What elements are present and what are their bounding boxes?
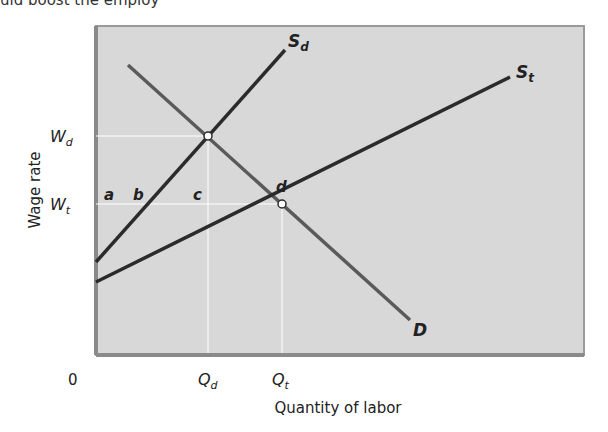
- plot-area: [96, 26, 584, 355]
- wd-tick-label: Wd: [50, 127, 74, 149]
- region-label-d: d: [276, 178, 287, 196]
- region-label-c: c: [193, 186, 202, 204]
- origin-label: 0: [68, 371, 78, 389]
- d-label: D: [413, 320, 427, 340]
- labor-market-chart: Sd St D a b c d Wd Wt Wage rate 0 Qd Qt …: [0, 0, 608, 432]
- qt-tick-label: Qt: [272, 370, 290, 392]
- trade-equilibrium-point: [278, 200, 286, 208]
- region-label-b: b: [133, 186, 144, 204]
- wt-tick-label: Wt: [50, 195, 71, 217]
- qd-tick-label: Qd: [198, 370, 219, 392]
- domestic-equilibrium-point: [204, 132, 212, 140]
- region-label-a: a: [104, 186, 114, 204]
- y-axis-title: Wage rate: [26, 151, 44, 228]
- x-axis-title: Quantity of labor: [274, 399, 402, 417]
